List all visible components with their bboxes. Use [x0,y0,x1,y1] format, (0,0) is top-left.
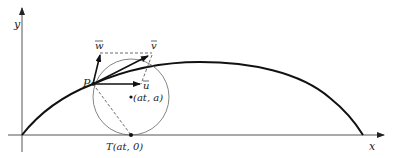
point-P [91,82,95,86]
x-axis-label: x [369,140,376,153]
point-T [129,133,133,137]
y-axis-label: y [13,18,21,31]
label-v: v [151,40,157,51]
cycloid-curve [22,62,363,135]
cycloid-diagram: y x P (at, a) T(at, 0) w v u [0,0,394,158]
label-w: w [95,40,104,51]
dashed-P-to-T [93,84,131,135]
vector-w [93,55,100,84]
label-T: T(at, 0) [106,141,143,152]
label-center: (at, a) [133,92,163,103]
label-P: P [82,77,91,90]
label-u: u [143,80,149,91]
